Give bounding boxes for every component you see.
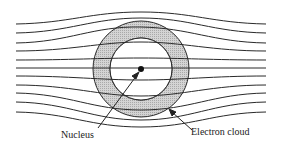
electron-cloud-arrow (169, 109, 192, 130)
nucleus-dot (138, 66, 144, 72)
diagram-canvas: Nucleus Electron cloud (0, 0, 281, 151)
electron-cloud-label: Electron cloud (191, 126, 250, 137)
nucleus-label: Nucleus (61, 129, 94, 140)
